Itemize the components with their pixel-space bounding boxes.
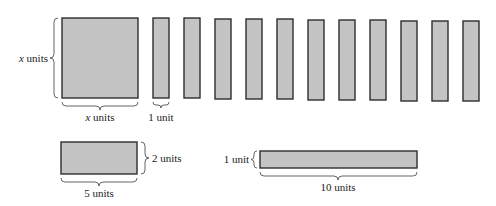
x-square-bottom-label: x units bbox=[84, 111, 114, 123]
strip-tile bbox=[432, 21, 448, 101]
rect-10x1-bottom-brace bbox=[260, 172, 417, 180]
x-by-1-strips: 1 unit bbox=[148, 18, 479, 123]
x-square-left-brace bbox=[50, 18, 58, 98]
strip-bottom-label: 1 unit bbox=[148, 111, 173, 123]
rect-10-by-1: 1 unit 10 units bbox=[224, 151, 417, 193]
rect-5x2 bbox=[61, 142, 137, 174]
algebra-tiles-diagram: x units x units 1 unit 2 units 5 units 1… bbox=[0, 0, 496, 206]
strip-tile bbox=[339, 20, 355, 100]
strip-tile bbox=[246, 19, 262, 99]
rect-10x1-height-label: 1 unit bbox=[224, 153, 249, 165]
rect-10x1-left-brace bbox=[251, 151, 257, 168]
rect-5-by-2: 2 units 5 units bbox=[61, 142, 182, 199]
rect-5x2-height-label: 2 units bbox=[152, 152, 182, 164]
rect-5x2-width-label: 5 units bbox=[84, 187, 114, 199]
strip-tile bbox=[308, 20, 324, 100]
x-square-bottom-brace bbox=[62, 102, 138, 110]
rect-10x1 bbox=[260, 151, 417, 168]
strip-tile bbox=[277, 19, 293, 99]
strip-tile bbox=[463, 21, 479, 101]
strip-tile bbox=[370, 20, 386, 100]
strip-tile bbox=[401, 21, 417, 101]
strip-tile bbox=[215, 19, 231, 99]
strip-bottom-brace bbox=[153, 102, 169, 108]
strip-tile bbox=[153, 18, 169, 98]
x-square bbox=[62, 18, 138, 98]
x-square-tile: x units x units bbox=[18, 18, 138, 123]
rect-5x2-right-brace bbox=[141, 142, 149, 174]
strip-tile bbox=[184, 18, 200, 98]
rect-10x1-width-label: 10 units bbox=[320, 181, 355, 193]
x-square-side-label: x units bbox=[18, 52, 48, 64]
rect-5x2-bottom-brace bbox=[61, 178, 137, 186]
